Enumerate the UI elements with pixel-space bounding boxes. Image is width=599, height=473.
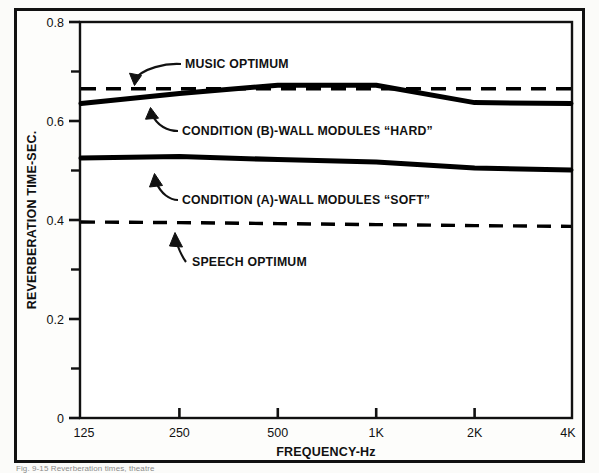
x-tick-labels: 125 250 500 1K 2K 4K — [74, 426, 577, 440]
x-tick-label-250: 250 — [169, 426, 190, 440]
y-tick-label-0.4: 0.4 — [47, 214, 64, 228]
y-tick-labels: 0.8 0.6 0.4 0.2 0 — [47, 16, 64, 426]
y-tick-label-0: 0 — [57, 412, 64, 426]
plot-area-frame — [80, 22, 572, 418]
condition-b-label: CONDITION (B)-WALL MODULES “HARD” — [182, 124, 433, 138]
x-tick-label-500: 500 — [267, 426, 288, 440]
x-tick-label-2K: 2K — [467, 426, 483, 440]
reverberation-time-chart: 0.8 0.6 0.4 0.2 0 REVERBERATION TIME-SEC… — [0, 0, 599, 473]
y-tick-label-0.2: 0.2 — [47, 313, 64, 327]
x-tick-label-1K: 1K — [369, 426, 385, 440]
y-axis-major-ticks — [69, 22, 80, 418]
music-optimum-label: MUSIC OPTIMUM — [185, 57, 289, 71]
y-tick-label-0.8: 0.8 — [47, 16, 64, 30]
figure-root: 0.8 0.6 0.4 0.2 0 REVERBERATION TIME-SEC… — [0, 0, 599, 473]
y-tick-label-0.6: 0.6 — [47, 115, 64, 129]
x-tick-label-125: 125 — [74, 426, 95, 440]
x-axis-title: FREQUENCY-Hz — [276, 445, 376, 459]
condition-a-label: CONDITION (A)-WALL MODULES “SOFT” — [182, 193, 430, 207]
figure-caption: Fig. 9-15 Reverberation times, theatre — [16, 464, 576, 473]
plot-frame-rect — [80, 22, 572, 418]
y-axis-title: REVERBERATION TIME-SEC. — [25, 131, 39, 310]
speech-optimum-label: SPEECH OPTIMUM — [192, 255, 307, 269]
x-tick-label-4K: 4K — [560, 426, 576, 440]
